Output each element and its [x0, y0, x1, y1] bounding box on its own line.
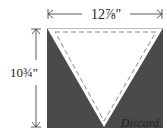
- width-label: 12⅞": [91, 7, 121, 22]
- height-label: 10¾": [10, 65, 38, 80]
- cutting-diagram: 12⅞" 10¾" Discard.: [0, 0, 167, 134]
- discard-label: Discard.: [120, 116, 162, 130]
